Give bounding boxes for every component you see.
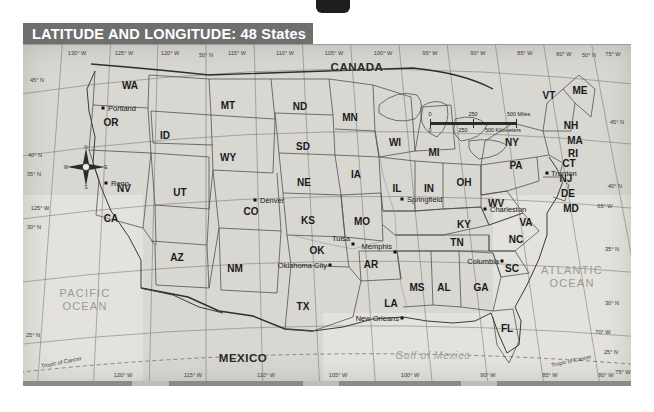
grid-label-bottom-4: 100° W [401,372,419,378]
state-label-co: CO [244,206,259,217]
city-dot-columbia [501,260,504,263]
state-label-mt: MT [221,100,235,111]
city-label-reno: Reno [111,179,129,188]
map-canvas: CANADA MEXICO PACIFIC OCEAN ATLANTIC OCE… [23,44,631,382]
state-label-mo: MO [354,216,370,227]
city-label-charleston: Charleston [490,205,526,214]
state-label-mi: MI [428,147,439,158]
state-label-or: OR [104,117,119,128]
ocean-label-pacific: PACIFIC OCEAN [60,287,111,312]
city-dot-denver [254,199,257,202]
state-label-wa: WA [122,80,138,91]
city-dot-portland [102,107,105,110]
scale-km-end: 500 Kilometers [485,127,521,133]
compass-rose: N S E W [63,144,109,190]
grid-label-bottom-9: 75° W [615,369,630,375]
grid-label-top-13: 75° W [605,51,620,57]
grid-label-top-7: 100° W [374,50,392,56]
scale-miles-end: 500 Miles [507,111,530,117]
state-label-pa: PA [509,160,522,171]
city-label-oklahoma-city: Oklahoma City [278,261,327,270]
grid-label-top-8: 95° W [422,50,437,56]
grid-label-right-4: 30° N [605,300,619,306]
grid-label-left-3: 30° N [27,224,41,230]
grid-label-left-35n: 35° N [27,171,41,177]
city-label-denver: Denver [260,196,284,205]
state-label-az: AZ [170,252,183,263]
scale-tick-mid [473,119,474,128]
state-label-il: IL [393,183,402,194]
state-label-vt: VT [543,90,556,101]
city-dot-new-orleans [401,317,404,320]
ocean-label-atlantic: ATLANTIC OCEAN [541,264,603,289]
gulf-of-mexico-label: Gulf of Mexico [395,350,470,361]
grid-label-left-0: 45° N [30,77,44,83]
state-label-ar: AR [364,259,378,270]
grid-label-top-11: 80° W [556,51,571,57]
map-title-banner: LATITUDE AND LONGITUDE: 48 States [23,23,313,44]
state-label-de: DE [561,188,575,199]
city-label-springfield: Springfield [407,195,442,204]
grid-label-bottom-7: 85° W [542,372,557,378]
state-label-id: ID [160,130,170,141]
pacific-line-1: PACIFIC [60,287,111,300]
compass-rose-icon [63,144,109,190]
state-label-ga: GA [474,282,489,293]
grid-label-right-1: 40° N [608,183,622,189]
grid-label-top-0: 130° W [68,50,86,56]
map-label-layer: CANADA MEXICO PACIFIC OCEAN ATLANTIC OCE… [23,45,631,382]
state-label-wi: WI [389,137,401,148]
grid-label-bottom-0: 120° W [114,372,132,378]
state-label-fl: FL [501,323,513,334]
grid-label-top-2: 120° W [161,50,179,56]
compass-label-n: N [84,145,87,150]
city-label-portland: Portland [108,104,136,113]
state-label-nc: NC [509,234,523,245]
state-label-la: LA [384,298,397,309]
state-label-ne: NE [297,177,311,188]
grid-label-left-5: 25° N [26,332,40,338]
country-label-canada: CANADA [331,61,384,73]
state-label-tx: TX [297,301,310,312]
compass-label-w: W [64,165,68,170]
city-dot-trenton [546,172,549,175]
state-label-ok: OK [310,245,325,256]
state-label-sc: SC [505,263,519,274]
grid-label-bottom-3: 105° W [329,372,347,378]
atlantic-line-2: OCEAN [541,277,603,290]
state-label-ut: UT [173,187,186,198]
scale-km-zero: 0 [429,127,432,133]
grid-label-right-5: 70° W [595,329,610,335]
state-label-nd: ND [293,101,307,112]
compass-label-e: E [104,165,107,170]
compass-label-s: S [84,185,87,190]
scale-miles-zero: 0 [429,111,432,117]
city-dot-oklahoma-city [329,264,332,267]
state-label-ks: KS [301,215,315,226]
city-dot-tulsa [352,243,355,246]
state-label-nh: NH [564,120,578,131]
map-page: LATITUDE AND LONGITUDE: 48 States [0,0,654,412]
state-label-nm: NM [227,263,243,274]
atlantic-line-1: ATLANTIC [541,264,603,277]
pacific-line-2: OCEAN [60,300,111,313]
grid-label-top-3: 50° N [199,52,213,58]
grid-label-right-0: 45° N [610,119,624,125]
state-label-va: VA [519,217,532,228]
city-label-columbia: Columbia [467,257,499,266]
city-label-tulsa: Tulsa [332,234,350,243]
grid-label-right-3: 35° N [605,246,619,252]
grid-label-top-12: 50° N [582,52,596,58]
state-label-ct: CT [562,158,575,169]
state-label-tn: TN [450,237,463,248]
state-label-md: MD [563,203,579,214]
tropic-of-cancer-label-right: Tropic of Cancer [550,354,591,368]
state-label-ma: MA [567,135,583,146]
state-label-ms: MS [410,282,425,293]
grid-label-top-6: 105° W [325,50,343,56]
city-dot-springfield [401,198,404,201]
grid-label-top-9: 90° W [470,50,485,56]
state-label-ky: KY [457,219,471,230]
state-label-oh: OH [457,177,472,188]
scale-km-mid: 250 [459,127,468,133]
